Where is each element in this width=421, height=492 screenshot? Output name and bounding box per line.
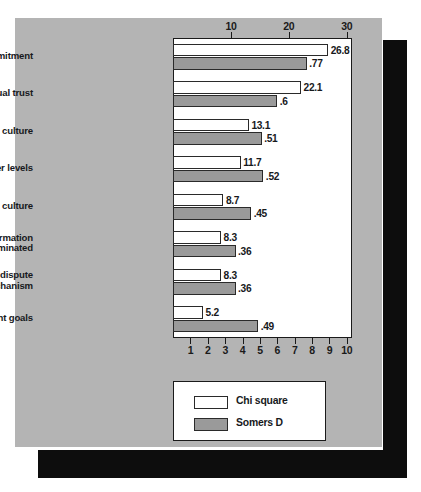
bar-chi-square [173,269,221,282]
bar-value-chi-square: 8.3 [224,232,237,243]
chart-legend: Chi squareSomers D [173,381,326,441]
bar-chi-square [173,81,301,94]
axis-bottom-tick-label: 4 [240,344,245,356]
bar-somers-d [173,132,262,145]
axis-bottom-tick-label: 6 [275,344,280,356]
bar-somers-d [173,320,258,333]
axis-top-tick-label: 30 [341,20,352,32]
category-label: Informationwidely disseminated [0,233,33,254]
bar-somers-d [173,57,307,70]
bar-value-somers-d: .51 [264,133,277,144]
bar-value-chi-square: 13.1 [251,120,270,131]
bar-value-chi-square: 8.7 [226,195,239,206]
category-label-line: Sensitivity to company culture [0,126,33,137]
axis-bottom-tick-label: 7 [292,344,297,356]
axis-top: 102030 [173,18,354,38]
bar-somers-d [173,95,277,108]
bar-value-somers-d: .6 [280,96,288,107]
axis-bottom-tick-label: 1 [188,344,193,356]
chart-panel: 102030 26.8.7722.1.613.1.5111.7.528.7.45… [15,18,382,447]
bar-value-chi-square: 26.8 [331,45,350,56]
axis-top-tick-label: 20 [283,20,294,32]
category-label: Sensitivity to company culture [0,126,33,137]
category-label: Mutual trust [0,88,33,99]
category-label: Good disputeresolution mechanism [0,270,33,291]
category-label-line: resolution mechanism [0,281,33,292]
axis-bottom-tick-label: 10 [341,344,352,356]
legend-swatch-chi-square [194,396,228,409]
bar-chi-square [173,194,223,207]
category-label: Commitment at lower levels [0,163,33,174]
bar-chi-square [173,119,249,132]
bar-somers-d [173,207,251,220]
bar-somers-d [173,282,236,295]
category-label-line: Top management commitment [0,51,33,62]
bar-value-somers-d: .52 [266,171,279,182]
category-label: Sensitivity to national culture [0,201,33,212]
bar-value-somers-d: .77 [309,58,322,69]
axis-bottom-tick-label: 5 [257,344,262,356]
axis-bottom-tick-label: 2 [205,344,210,356]
bar-value-chi-square: 11.7 [243,157,261,168]
panel-shadow-right [383,40,407,450]
legend-swatch-somers-d [194,418,228,431]
bar-value-somers-d: .45 [254,208,267,219]
category-label: Congruent goals [0,313,33,324]
axis-bottom-tick-label: 8 [309,344,314,356]
category-label-line: Congruent goals [0,313,33,324]
axis-top-tick-label: 10 [225,20,236,32]
bar-value-chi-square: 5.2 [206,307,219,318]
bar-chi-square [173,231,221,244]
bar-chi-square [173,156,241,169]
bar-value-somers-d: .36 [238,246,251,257]
bar-somers-d [173,245,236,258]
axis-bottom-tick-label: 9 [327,344,332,356]
axis-bottom-tick-label: 3 [222,344,227,356]
category-label-line: widely disseminated [0,243,33,254]
bar-value-chi-square: 22.1 [304,82,323,93]
bar-chi-square [173,44,328,57]
panel-shadow-bottom [38,450,407,478]
category-label-line: Mutual trust [0,88,33,99]
legend-label: Somers D [236,417,283,428]
axis-bottom: 12345678910 [173,338,354,360]
bar-value-somers-d: .49 [261,321,274,332]
bar-value-somers-d: .36 [238,283,251,294]
bar-chi-square [173,306,203,319]
legend-label: Chi square [236,395,288,406]
category-label-line: Commitment at lower levels [0,163,33,174]
bar-value-chi-square: 8.3 [224,270,237,281]
bar-somers-d [173,170,263,183]
category-label-line: Sensitivity to national culture [0,201,33,212]
category-label: Top management commitment [0,51,33,62]
